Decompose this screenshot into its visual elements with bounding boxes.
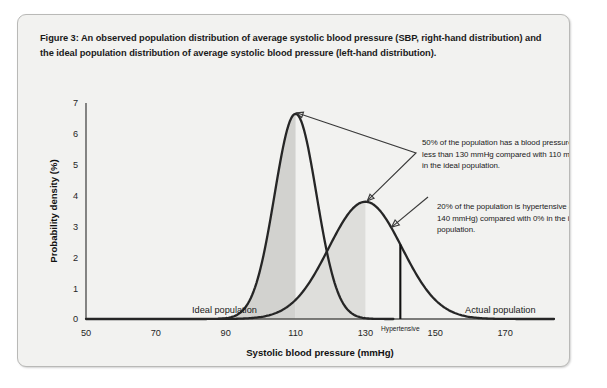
y-tick-2: 2 [73,253,78,263]
y-tick-5: 5 [73,160,78,170]
x-axis-title: Systolic blood pressure (mmHg) [246,347,394,358]
x-axis-tick-labels: 507090110130150170 [81,328,513,338]
y-tick-7: 7 [73,98,78,108]
y-tick-0: 0 [73,314,78,324]
y-tick-6: 6 [73,129,78,139]
actual-population-label: Actual population [465,305,536,315]
x-tick-130: 130 [358,328,373,338]
x-tick-70: 70 [151,328,161,338]
y-axis-tick-labels: 01234567 [73,98,78,324]
x-tick-170: 170 [497,328,512,338]
annotation-text-50-percent: 50% of the population has a blood pressu… [422,137,570,172]
y-tick-4: 4 [73,191,78,201]
x-tick-50: 50 [81,328,91,338]
ideal-population-label: Ideal population [192,305,257,315]
y-axis-title: Probability density (%) [48,159,59,262]
figure-frame: Figure 3: An observed population distrib… [17,14,570,367]
chart-svg: 01234567 507090110130150170 Probability … [18,15,570,367]
y-tick-1: 1 [73,284,78,294]
chart-plot-area: 01234567 507090110130150170 Probability … [18,15,570,367]
x-tick-90: 90 [221,328,231,338]
x-tick-110: 110 [288,328,303,338]
ideal-distribution-shaded-area [86,114,296,319]
hypertensive-marker-label: Hypertensive [381,325,420,333]
actual-distribution-shaded-area [296,202,366,319]
y-tick-3: 3 [73,222,78,232]
annotation-text-20-percent: 20% of the population is hypertensive (S… [437,201,570,236]
x-tick-150: 150 [428,328,443,338]
